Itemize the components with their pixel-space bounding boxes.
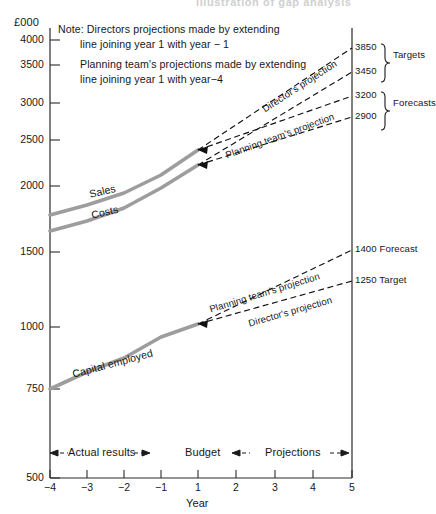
right-label-target: Target [379,274,406,285]
note-line-2: line joining year 1 with year − 1 [80,38,229,50]
x-tick-minus2: −2 [112,481,136,493]
y-tick-2500: 2500 [10,133,44,145]
right-value-3850: 3850 [355,41,377,52]
x-tick-minus3: −3 [75,481,99,493]
right-value-2900: 2900 [355,110,377,121]
x-tick-4: 4 [301,481,325,493]
targets-brace [381,44,390,82]
x-tick-minus1: −1 [149,481,173,493]
x-tick-2: 2 [224,481,248,493]
note-line-4: line joining year 1 with year−4 [80,73,223,85]
x-tick-3: 3 [263,481,287,493]
right-value-capital-target: 1250 Target [355,274,407,285]
right-value-3200: 3200 [355,89,377,100]
x-axis-ticks [50,470,352,478]
projection-origin-arrows [198,146,208,328]
right-brace-group [381,44,390,130]
right-label-forecast: Forecast [380,243,418,254]
y-axis-ticks [50,40,60,478]
right-value-1400: 1400 [355,243,377,254]
y-tick-750: 750 [10,382,44,394]
right-group-forecasts: Forecasts [393,97,436,108]
x-tick-minus4: −4 [38,481,62,493]
right-value-1250: 1250 [355,274,377,285]
y-axis-unit-label: £000 [14,16,39,28]
note-line-1: Note: Directors projections made by exte… [58,23,280,35]
phase-label-budget: Budget [185,446,220,458]
note-line-3: Planning team's projections made by exte… [80,58,306,70]
sales-line [50,150,198,215]
right-value-3450: 3450 [355,65,377,76]
x-axis-title: Year [186,497,209,509]
x-tick-1: 1 [186,481,210,493]
y-tick-1500: 1500 [10,245,44,257]
right-value-capital-forecast: 1400 Forecast [355,243,418,254]
axis-lines [50,28,352,478]
y-tick-2000: 2000 [10,179,44,191]
y-tick-3000: 3000 [10,96,44,108]
phase-label-actual-results: Actual results [68,446,135,458]
costs-line [50,165,198,231]
y-tick-4000: 4000 [10,33,44,45]
forecasts-brace [381,92,390,130]
x-tick-5: 5 [340,481,364,493]
y-tick-3500: 3500 [10,58,44,70]
right-group-targets: Targets [393,49,425,60]
phase-label-projections: Projections [265,446,321,458]
y-tick-1000: 1000 [10,320,44,332]
